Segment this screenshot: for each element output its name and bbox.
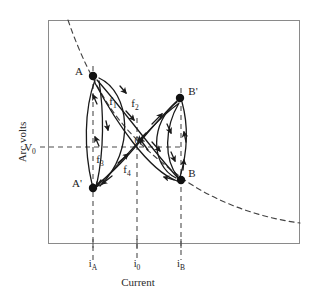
point-aprime-marker [89, 184, 97, 192]
point-label-b: B [188, 167, 195, 179]
transition-label-f4-sub: 4 [127, 169, 131, 178]
transition-label-f3-sub: 3 [100, 159, 104, 168]
xtick-label-ia-sub: A [92, 263, 98, 272]
arc-characteristic-diagram: A A' B B' f1 f2 f3 f4 0 V0 iA i0 iB [0, 0, 319, 306]
x-axis-label: Current [103, 276, 173, 288]
point-b-marker [177, 176, 185, 184]
xtick-label-ia: iA [89, 258, 98, 272]
origin-label: 0 [135, 135, 140, 146]
xtick-label-i0-sub: 0 [137, 263, 141, 272]
transition-label-f2-sub: 2 [135, 103, 139, 112]
ytick-label-v0-sub: 0 [32, 147, 36, 156]
point-label-aprime: A' [72, 177, 82, 189]
point-label-a: A [75, 65, 83, 77]
xtick-label-i0: i0 [134, 258, 141, 272]
point-a-marker [89, 72, 97, 80]
xtick-label-ib-sub: B [180, 263, 185, 272]
xtick-label-ib: iB [177, 258, 185, 272]
y-axis-label: Arc volts [16, 107, 28, 177]
transition-label-f1-sub: 1 [113, 101, 117, 110]
point-label-bprime: B' [188, 85, 197, 97]
point-bprime-marker [176, 94, 184, 102]
